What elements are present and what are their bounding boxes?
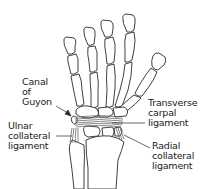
label-ulnar-collateral-ligament: Ulnar collateral ligament (8, 121, 50, 151)
arrow-head-icon (65, 110, 71, 116)
ulna-bone (69, 140, 84, 189)
label-transverse-carpal-ligament: Transverse carpal ligament (148, 98, 197, 128)
ring-finger-bones (84, 27, 99, 108)
index-finger-bones (115, 14, 135, 107)
wrist-diagram: Canal of Guyon Ulnar collateral ligament… (0, 0, 210, 189)
label-canal-of-guyon: Canal of Guyon (22, 77, 52, 107)
radius-bone (86, 136, 124, 189)
middle-finger-bones (101, 20, 116, 107)
little-finger-bones (64, 37, 84, 106)
radial-collateral-leader (124, 135, 150, 148)
label-radial-collateral-ligament: Radial collateral ligament (152, 141, 194, 171)
